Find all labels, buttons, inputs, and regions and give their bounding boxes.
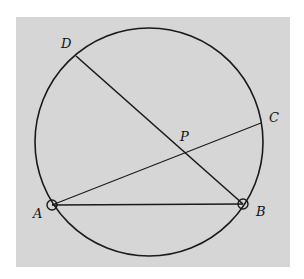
point-label-b: B — [255, 204, 266, 219]
point-label-d: D — [60, 36, 72, 51]
point-label-c: C — [269, 110, 279, 125]
chord-DB — [76, 56, 243, 204]
chord-AB — [52, 204, 243, 205]
circle — [35, 28, 263, 256]
point-label-p: P — [179, 129, 189, 144]
circle-chords-diagram: ABCDP — [0, 0, 304, 279]
point-label-a: A — [32, 206, 42, 221]
